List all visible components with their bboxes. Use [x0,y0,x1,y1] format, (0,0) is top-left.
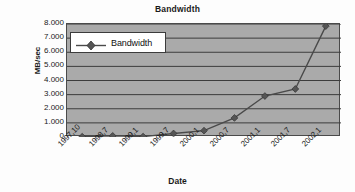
x-axis-tick-labels: 1997,101998,71999,11999,72000,12000,7200… [0,0,355,192]
x-axis-title: Date [0,176,355,186]
x-tick-label: 2000,7 [208,126,231,149]
x-tick-label: 2001,7 [269,126,292,149]
x-tick-label: 2001,1 [239,126,262,149]
bandwidth-chart: Bandwidth MB/sec 01.0002.0003.0004.0005.… [0,0,355,192]
x-tick-label: 1999,7 [148,126,171,149]
x-tick-label: 2000,1 [178,126,201,149]
x-tick-label: 2002,1 [300,126,323,149]
x-tick-label: 1997,10 [56,123,82,149]
x-tick-label: 1998,7 [87,126,110,149]
x-tick-label: 1999,1 [117,126,140,149]
